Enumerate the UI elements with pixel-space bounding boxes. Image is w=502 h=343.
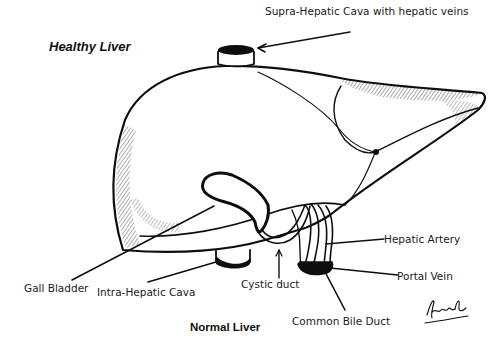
diagram-title: Healthy Liver — [49, 40, 131, 53]
signature — [425, 301, 468, 323]
leader-hepatic-artery — [326, 239, 384, 244]
liver-diagram: Healthy Liver Supra-Hepatic Cava with he… — [0, 0, 502, 343]
leader-intra-hepatic-cava — [148, 262, 216, 282]
portal-vein — [298, 262, 333, 275]
label-cystic-duct: Cystic duct — [241, 279, 299, 290]
leader-supra-hepatic-cava — [258, 32, 350, 48]
label-gall-bladder: Gall Bladder — [24, 283, 88, 294]
label-intra-hepatic-cava: Intra-Hepatic Cava — [97, 287, 195, 298]
label-common-bile-duct: Common Bile Duct — [292, 316, 390, 327]
label-supra-hepatic-cava: Supra-Hepatic Cava with hepatic veins — [265, 6, 469, 17]
label-portal-vein: Portal Vein — [397, 271, 453, 282]
leader-portal-vein — [330, 268, 398, 275]
diagram-caption: Normal Liver — [190, 322, 260, 334]
leader-common-bile-duct — [324, 270, 345, 310]
label-hepatic-artery: Hepatic Artery — [384, 234, 460, 245]
